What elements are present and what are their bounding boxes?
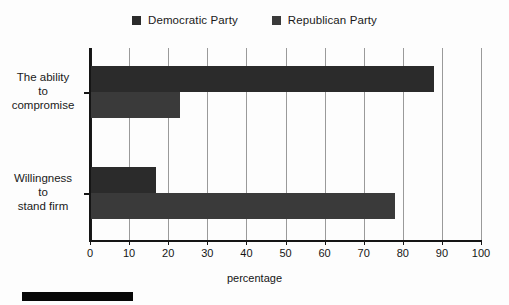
x-tick-label-60: 60 [318, 247, 330, 259]
x-tick-50 [286, 240, 287, 245]
y-category-label-line: Willingness [0, 171, 89, 185]
bar-democratic-1 [90, 66, 434, 92]
x-tick-label-40: 40 [240, 247, 252, 259]
x-tick-label-90: 90 [436, 247, 448, 259]
x-tick-label-100: 100 [472, 247, 490, 259]
y-category-label-line: to [0, 185, 89, 199]
x-tick-30 [207, 240, 208, 245]
x-tick-10 [129, 240, 130, 245]
plot-area: The abilitytocompromiseWillingnesstostan… [90, 48, 481, 240]
x-tick-100 [481, 240, 482, 245]
bar-democratic-2 [90, 167, 156, 193]
x-tick-label-0: 0 [87, 247, 93, 259]
bar-republican-2 [90, 193, 395, 219]
x-tick-20 [168, 240, 169, 245]
y-category-label-1: The abilitytocompromise [0, 70, 89, 112]
x-tick-label-50: 50 [279, 247, 291, 259]
legend-square-marker-icon [272, 16, 281, 25]
source-caption-block [22, 292, 133, 301]
y-tick-2 [84, 193, 90, 195]
x-tick-0 [90, 240, 91, 245]
x-tick-label-70: 70 [358, 247, 370, 259]
chart-legend: Democratic Party Republican Party [0, 14, 509, 26]
bar-republican-1 [90, 92, 180, 118]
y-axis-line [89, 48, 91, 240]
x-tick-label-80: 80 [397, 247, 409, 259]
legend-item-democratic-party: Democratic Party [132, 14, 238, 26]
x-tick-90 [442, 240, 443, 245]
bar-chart-figure: Democratic Party Republican Party The ab… [0, 0, 509, 305]
y-category-label-line: to [0, 84, 89, 98]
y-category-label-line: stand firm [0, 199, 89, 213]
x-tick-label-30: 30 [201, 247, 213, 259]
x-tick-70 [364, 240, 365, 245]
x-tick-40 [246, 240, 247, 245]
x-tick-label-20: 20 [162, 247, 174, 259]
gridline-90 [442, 48, 443, 240]
legend-label-republican-party: Republican Party [288, 14, 377, 26]
legend-square-marker-icon [132, 16, 141, 25]
x-axis-title: percentage [0, 272, 509, 284]
y-category-label-2: Willingnesstostand firm [0, 171, 89, 213]
y-category-label-line: compromise [0, 98, 89, 112]
x-tick-60 [325, 240, 326, 245]
x-tick-label-10: 10 [123, 247, 135, 259]
gridline-100 [481, 48, 482, 240]
legend-item-republican-party: Republican Party [272, 14, 377, 26]
y-category-label-line: The ability [0, 70, 89, 84]
legend-label-democratic-party: Democratic Party [148, 14, 238, 26]
y-tick-1 [84, 92, 90, 94]
x-tick-80 [403, 240, 404, 245]
